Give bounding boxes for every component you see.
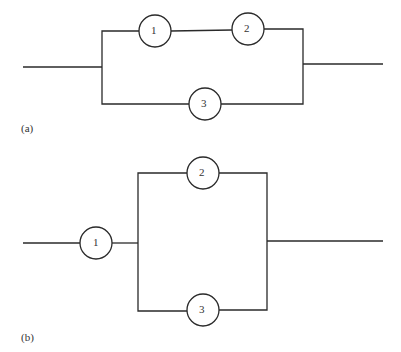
node-a-1-label: 1	[151, 24, 157, 36]
node-b-2-label: 2	[199, 166, 205, 178]
node-a-3-label: 3	[201, 97, 207, 109]
diagram-b-label: (b)	[21, 331, 34, 343]
diagram-a-label: (a)	[21, 122, 33, 134]
node-b-3-label: 3	[199, 303, 205, 315]
diagram-b	[23, 157, 383, 326]
node-b-1-label: 1	[93, 236, 99, 248]
node-a-2-label: 2	[244, 22, 250, 34]
